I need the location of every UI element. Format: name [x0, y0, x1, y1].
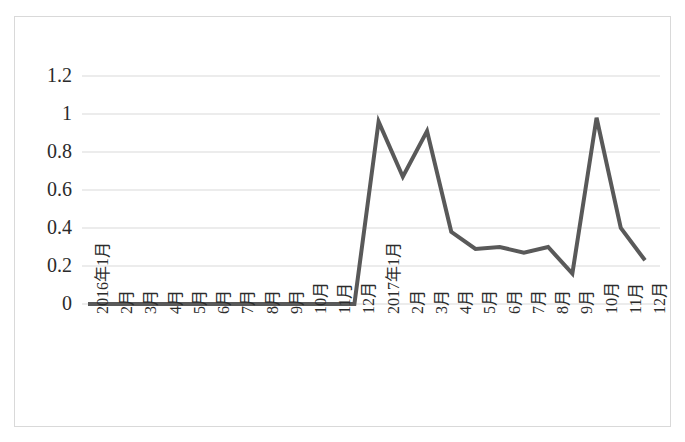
- y-axis-tick-label: 0.6: [12, 179, 72, 199]
- data-series-group: [88, 118, 645, 304]
- y-axis-tick-label: 0.8: [12, 141, 72, 161]
- y-axis-tick-label: 0: [12, 293, 72, 313]
- y-axis-tick-label: 0.2: [12, 255, 72, 275]
- chart-container: 1.210.80.60.40.20 2016年1月2月3月4月5月6月7月8月9…: [0, 0, 685, 442]
- line-chart-plot: [0, 0, 685, 442]
- y-axis-tick-label: 1: [12, 103, 72, 123]
- y-axis-tick-label: 0.4: [12, 217, 72, 237]
- data-line-1: [88, 118, 645, 304]
- y-axis-tick-label: 1.2: [12, 65, 72, 85]
